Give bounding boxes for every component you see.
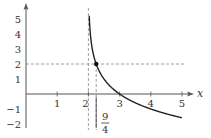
function-curve — [89, 16, 182, 118]
x-tick-label: 1 — [54, 98, 60, 109]
function-plot: 1234554321−1−2 x 9 4 — [0, 0, 211, 138]
x-tick-label: 4 — [148, 98, 154, 109]
x-axis-label: x — [197, 87, 204, 100]
fraction-numerator: 9 — [102, 111, 108, 122]
y-tick-label: −2 — [6, 119, 21, 130]
y-tick-label: 3 — [15, 44, 21, 55]
fraction-denominator: 4 — [102, 124, 108, 135]
x-tick-label: 3 — [116, 98, 122, 109]
x-tick-label: 5 — [179, 98, 185, 109]
y-tick-label: 2 — [15, 59, 21, 70]
axes — [24, 3, 195, 128]
fraction-label: 9 4 — [101, 111, 109, 135]
y-tick-label: 1 — [15, 74, 21, 85]
y-tick-label: 5 — [15, 14, 21, 25]
highlight-point — [94, 62, 98, 66]
x-tick-label: 2 — [82, 98, 88, 109]
y-tick-label: −1 — [6, 104, 21, 115]
y-tick-label: 4 — [15, 29, 21, 40]
